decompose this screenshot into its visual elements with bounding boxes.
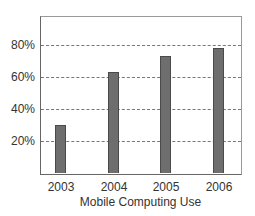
gridline-80 (41, 45, 241, 46)
gridline-60 (41, 77, 241, 78)
bar-2003 (55, 125, 66, 173)
gridline-20 (41, 141, 241, 142)
y-tick-label: 60% (1, 71, 35, 83)
x-tick-label: 2005 (146, 180, 186, 194)
x-axis-title: Mobile Computing Use (40, 195, 241, 209)
x-tick-label: 2003 (41, 180, 81, 194)
y-tick-label: 40% (1, 103, 35, 115)
bar-2006 (213, 48, 224, 173)
x-tick-label: 2006 (199, 180, 239, 194)
bar-2004 (108, 72, 119, 173)
y-tick-label: 80% (1, 39, 35, 51)
gridline-40 (41, 109, 241, 110)
x-tick-label: 2004 (94, 180, 134, 194)
y-tick-label: 20% (1, 135, 35, 147)
plot-area (40, 16, 242, 175)
bar-2005 (160, 56, 171, 173)
